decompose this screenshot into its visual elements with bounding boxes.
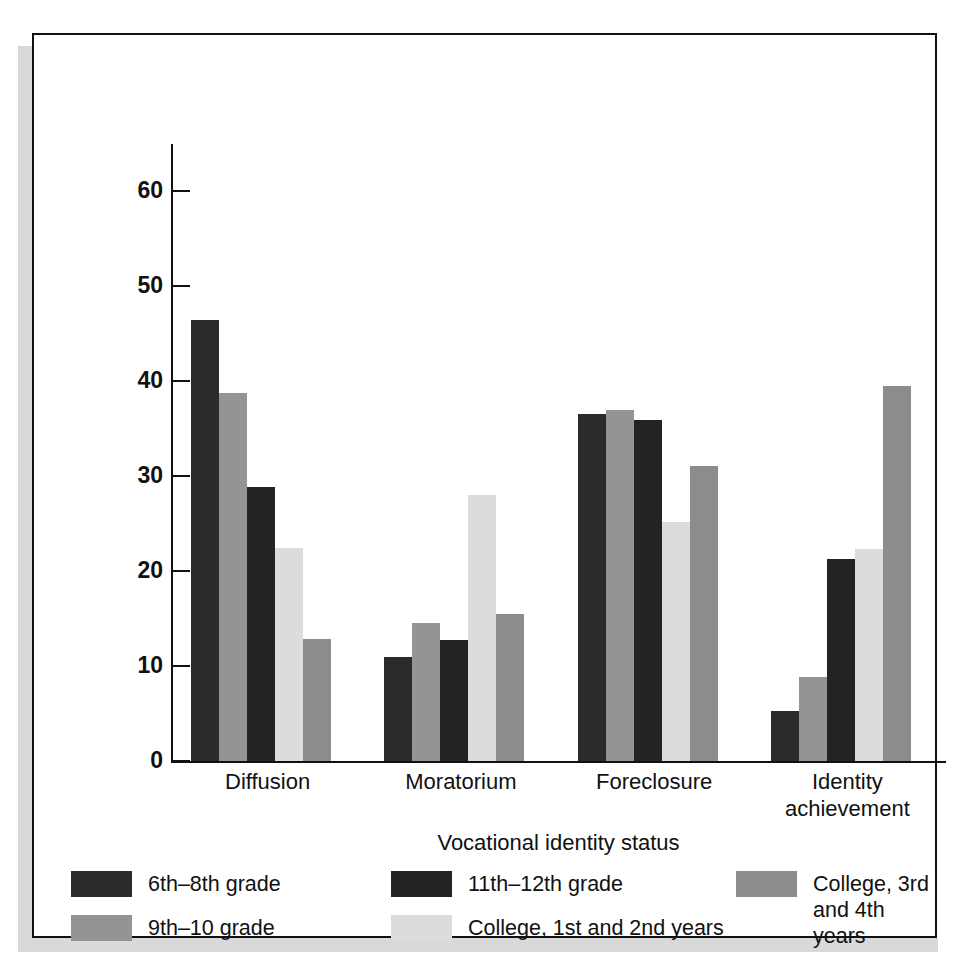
y-tick-label-50: 50 [137, 274, 163, 297]
bar [883, 386, 911, 761]
legend-swatch [736, 871, 797, 897]
bar-series-container [173, 144, 946, 761]
y-tick-label-60: 60 [137, 179, 163, 202]
x-category-label-line: Diffusion [171, 768, 364, 795]
figure: 0102030405060 Percentage of young people… [0, 0, 975, 973]
bar-group [771, 144, 911, 761]
y-tick-label-10: 10 [137, 654, 163, 677]
bar [412, 623, 440, 761]
bar [799, 677, 827, 761]
y-tick-label-30: 30 [137, 464, 163, 487]
bar [662, 522, 690, 761]
legend-label: College, 3rd and 4th years [813, 871, 931, 949]
x-category-label: Diffusion [171, 768, 364, 795]
bar [827, 559, 855, 761]
legend-item: 6th–8th grade [71, 871, 281, 897]
x-category-label-line: Foreclosure [558, 768, 751, 795]
x-category-label: Foreclosure [558, 768, 751, 795]
legend-swatch [391, 915, 452, 941]
plot-area: 0102030405060 [171, 144, 946, 763]
x-category-label: Moratorium [364, 768, 557, 795]
legend-item: College, 3rd and 4th years [736, 871, 931, 949]
legend-label: College, 1st and 2nd years [468, 915, 724, 941]
legend-label: 9th–10 grade [148, 915, 275, 941]
bar [247, 487, 275, 761]
legend-label: 11th–12th grade [468, 871, 623, 897]
legend-swatch [71, 871, 132, 897]
bar [191, 320, 219, 761]
x-category-label-line: achievement [751, 795, 944, 822]
legend: 6th–8th grade9th–10 grade11th–12th grade… [71, 871, 931, 959]
bar [496, 614, 524, 761]
legend-label: 6th–8th grade [148, 871, 281, 897]
y-tick-label-0: 0 [150, 749, 163, 772]
legend-swatch [71, 915, 132, 941]
x-category-label-line: Identity [751, 768, 944, 795]
y-tick-label-40: 40 [137, 369, 163, 392]
bar-group [191, 144, 331, 761]
legend-item: 9th–10 grade [71, 915, 275, 941]
bar [634, 420, 662, 761]
x-category-label-line: Moratorium [364, 768, 557, 795]
x-axis-category-labels: DiffusionMoratoriumForeclosureIdentityac… [171, 768, 946, 830]
bar [690, 466, 718, 761]
bar [275, 548, 303, 761]
bar [606, 410, 634, 761]
bar-group [384, 144, 524, 761]
bar [219, 393, 247, 761]
bar-group [578, 144, 718, 761]
legend-swatch [391, 871, 452, 897]
x-axis-title: Vocational identity status [171, 830, 946, 856]
y-axis-tick-labels: 0102030405060 [91, 144, 163, 763]
legend-item: 11th–12th grade [391, 871, 623, 897]
bar [855, 549, 883, 761]
legend-item: College, 1st and 2nd years [391, 915, 724, 941]
y-tick-label-20: 20 [137, 559, 163, 582]
bar [303, 639, 331, 761]
page-shadow-left [18, 46, 32, 951]
bar [384, 657, 412, 761]
bar [771, 711, 799, 761]
bar [578, 414, 606, 761]
bar [468, 495, 496, 761]
x-category-label: Identityachievement [751, 768, 944, 822]
x-axis-line [171, 761, 946, 763]
bar [440, 640, 468, 762]
chart-frame: 0102030405060 Percentage of young people… [32, 33, 937, 938]
